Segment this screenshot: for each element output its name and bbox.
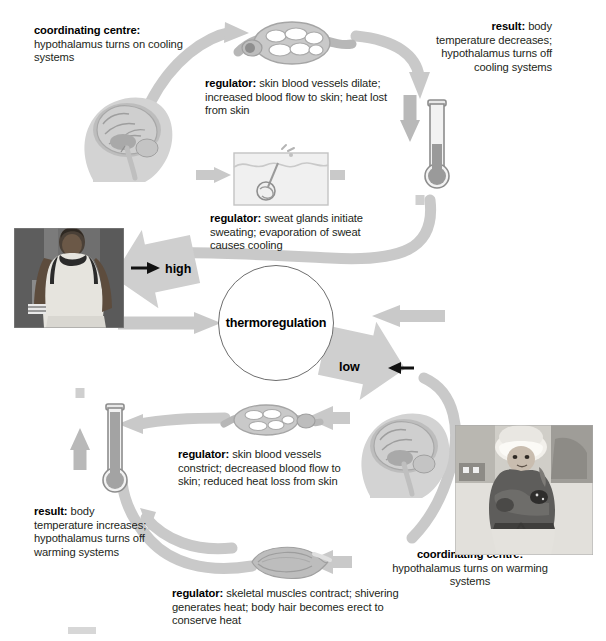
regulator-sweating-label: regulator: xyxy=(210,212,261,224)
photo-sweating-athlete xyxy=(14,228,124,328)
branch-label-high: high xyxy=(165,262,191,276)
node-regulator-vasoconstriction: regulator: skin blood vessels constrict;… xyxy=(178,448,358,489)
arrow-high-to-center xyxy=(118,312,221,334)
node-regulator-vasodilation: regulator: skin blood vessels dilate; in… xyxy=(205,77,395,118)
coordinating-centre-cooling-body: hypothalamus turns on cooling systems xyxy=(34,38,183,64)
node-regulator-sweating: regulator: sweat glands initiate sweatin… xyxy=(210,212,390,253)
page-edge-artifact xyxy=(68,627,96,634)
node-regulator-shivering: regulator: skeletal muscles contract; sh… xyxy=(172,587,408,628)
result-cooling-label: result: xyxy=(492,20,526,32)
center-node-thermoregulation: thermoregulation xyxy=(218,265,334,381)
dilated-blood-vessel-icon xyxy=(236,16,354,76)
node-result-cooling: result: body temperature decreases; hypo… xyxy=(430,20,552,74)
center-node-label: thermoregulation xyxy=(226,316,326,330)
arrow-temperature-down xyxy=(400,95,420,142)
node-result-warming: result: body temperature increases; hypo… xyxy=(34,505,152,559)
coordinating-centre-cooling-label: coordinating centre: xyxy=(34,24,140,36)
result-warming-label: result: xyxy=(34,505,68,517)
branch-label-low: low xyxy=(339,360,360,374)
regulator-shivering-label: regulator: xyxy=(172,587,223,599)
skeletal-muscle-icon xyxy=(248,542,332,586)
brain-hypothalamus-icon-bottom xyxy=(352,404,456,504)
thermometer-falling-icon xyxy=(420,98,454,198)
arrow-athlete-to-high xyxy=(131,262,160,274)
node-coordinating-centre-cooling: coordinating centre: hypothalamus turns … xyxy=(34,24,194,65)
thermometer-rising-icon xyxy=(98,402,132,502)
photo-shivering-child xyxy=(455,425,593,555)
arrow-to-thermometer-up xyxy=(118,414,225,434)
arrow-into-sweat-gland xyxy=(196,167,231,183)
arrow-temperature-up xyxy=(70,428,90,470)
coordinating-centre-warming-body: hypothalamus turns on warming systems xyxy=(392,562,548,588)
brain-hypothalamus-icon-top xyxy=(75,88,179,188)
skin-sweat-gland-icon xyxy=(232,143,330,211)
thermoregulation-diagram: coordinating centre: hypothalamus turns … xyxy=(0,0,606,641)
regulator-vasodilation-label: regulator: xyxy=(205,77,256,89)
arrow-result-warming xyxy=(140,508,232,549)
arrow-low-to-center xyxy=(372,305,445,327)
constricted-blood-vessel-icon xyxy=(222,396,322,450)
arrow-child-to-low xyxy=(388,362,414,374)
